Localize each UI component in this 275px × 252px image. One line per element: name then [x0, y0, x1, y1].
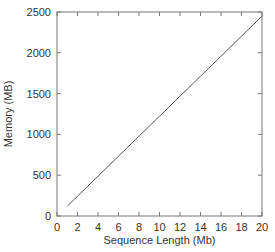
x-tick-label: 2: [74, 221, 80, 233]
y-tick-label: 2000: [27, 47, 51, 59]
x-tick-label: 20: [256, 221, 268, 233]
x-tick-label: 16: [215, 221, 227, 233]
series-line: [67, 16, 262, 206]
x-tick-label: 8: [136, 221, 142, 233]
x-axis-label: Sequence Length (Mb): [104, 234, 216, 246]
x-tick-label: 18: [235, 221, 247, 233]
y-axis-label: Memory (MB): [2, 81, 14, 148]
y-tick-label: 2500: [27, 6, 51, 18]
x-tick-label: 0: [54, 221, 60, 233]
y-axis-ticks: 05001000150020002500: [27, 6, 262, 222]
x-tick-label: 10: [153, 221, 165, 233]
x-tick-label: 6: [115, 221, 121, 233]
line-chart: 05001000150020002500 02468101214161820 S…: [0, 0, 275, 252]
y-tick-label: 1500: [27, 88, 51, 100]
x-tick-label: 12: [174, 221, 186, 233]
y-tick-label: 0: [45, 210, 51, 222]
x-tick-label: 4: [95, 221, 101, 233]
x-tick-label: 14: [194, 221, 206, 233]
plot-frame: [57, 12, 262, 216]
y-tick-label: 1000: [27, 128, 51, 140]
plot-border: [57, 12, 262, 216]
y-tick-label: 500: [33, 169, 51, 181]
data-series: [67, 16, 262, 206]
x-axis-ticks: 02468101214161820: [54, 12, 268, 233]
